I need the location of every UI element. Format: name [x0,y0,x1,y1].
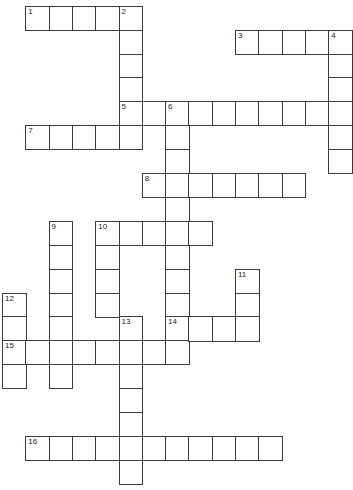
grid-cell[interactable] [188,221,213,246]
grid-cell[interactable] [72,340,97,365]
clue-number: 5 [122,103,126,111]
grid-cell[interactable] [119,221,144,246]
grid-cell[interactable] [212,436,237,461]
grid-cell[interactable] [119,436,144,461]
grid-cell[interactable] [282,30,307,55]
grid-cell[interactable] [2,364,27,389]
grid-cell[interactable] [49,125,74,150]
grid-cell[interactable] [119,77,144,102]
grid-cell[interactable] [119,30,144,55]
grid-cell[interactable] [188,436,213,461]
grid-cell[interactable]: 6 [165,101,190,126]
grid-cell[interactable] [95,125,120,150]
grid-cell[interactable] [328,77,353,102]
grid-cell[interactable] [95,6,120,31]
grid-cell[interactable] [142,436,167,461]
grid-cell[interactable]: 7 [25,125,50,150]
grid-cell[interactable]: 15 [2,340,27,365]
grid-cell[interactable]: 12 [2,293,27,318]
grid-cell[interactable] [235,316,260,341]
grid-cell[interactable] [72,6,97,31]
grid-cell[interactable] [165,245,190,270]
grid-cell[interactable] [328,101,353,126]
grid-cell[interactable] [235,173,260,198]
grid-cell[interactable]: 10 [95,221,120,246]
grid-cell[interactable] [72,436,97,461]
grid-cell[interactable] [49,269,74,294]
grid-cell[interactable] [212,316,237,341]
grid-cell[interactable] [49,364,74,389]
grid-cell[interactable]: 11 [235,269,260,294]
grid-cell[interactable]: 16 [25,436,50,461]
clue-number: 10 [98,223,107,231]
grid-cell[interactable] [49,436,74,461]
grid-cell[interactable] [258,173,283,198]
grid-cell[interactable] [142,221,167,246]
grid-cell[interactable] [328,125,353,150]
grid-cell[interactable] [235,293,260,318]
grid-cell[interactable] [119,460,144,485]
grid-cell[interactable] [25,340,50,365]
grid-cell[interactable] [188,316,213,341]
grid-cell[interactable] [49,293,74,318]
grid-cell[interactable] [2,316,27,341]
grid-cell[interactable] [119,54,144,79]
grid-cell[interactable]: 2 [119,6,144,31]
grid-cell[interactable] [119,125,144,150]
grid-cell[interactable] [119,364,144,389]
grid-cell[interactable]: 4 [328,30,353,55]
grid-cell[interactable] [282,101,307,126]
clue-number: 3 [238,32,242,40]
clue-number: 2 [122,8,126,16]
grid-cell[interactable]: 3 [235,30,260,55]
grid-cell[interactable] [165,125,190,150]
grid-cell[interactable] [95,436,120,461]
grid-cell[interactable] [165,340,190,365]
clue-number: 6 [168,103,172,111]
grid-cell[interactable] [49,6,74,31]
grid-cell[interactable] [165,149,190,174]
grid-cell[interactable] [165,197,190,222]
grid-cell[interactable]: 13 [119,316,144,341]
grid-cell[interactable]: 8 [142,173,167,198]
grid-cell[interactable] [49,340,74,365]
grid-cell[interactable] [142,340,167,365]
grid-cell[interactable] [258,30,283,55]
clue-number: 15 [5,342,14,350]
grid-cell[interactable] [95,245,120,270]
grid-cell[interactable] [165,293,190,318]
grid-cell[interactable] [165,221,190,246]
grid-cell[interactable] [305,30,330,55]
grid-cell[interactable] [235,436,260,461]
grid-cell[interactable] [49,245,74,270]
grid-cell[interactable] [328,149,353,174]
grid-cell[interactable] [188,101,213,126]
grid-cell[interactable] [305,101,330,126]
grid-cell[interactable] [49,316,74,341]
grid-cell[interactable] [258,436,283,461]
grid-cell[interactable] [95,293,120,318]
grid-cell[interactable]: 5 [119,101,144,126]
grid-cell[interactable]: 1 [25,6,50,31]
grid-cell[interactable] [212,173,237,198]
grid-cell[interactable]: 14 [165,316,190,341]
grid-cell[interactable] [95,269,120,294]
grid-cell[interactable] [212,101,237,126]
grid-cell[interactable] [119,412,144,437]
grid-cell[interactable] [119,340,144,365]
grid-cell[interactable] [72,125,97,150]
grid-cell[interactable] [235,101,260,126]
grid-cell[interactable] [328,54,353,79]
grid-cell[interactable] [95,340,120,365]
grid-cell[interactable] [119,388,144,413]
grid-cell[interactable] [142,101,167,126]
clue-number: 7 [28,127,32,135]
grid-cell[interactable]: 9 [49,221,74,246]
grid-cell[interactable] [258,101,283,126]
grid-cell[interactable] [165,269,190,294]
grid-cell[interactable] [165,173,190,198]
grid-cell[interactable] [282,173,307,198]
grid-cell[interactable] [165,436,190,461]
grid-cell[interactable] [188,173,213,198]
